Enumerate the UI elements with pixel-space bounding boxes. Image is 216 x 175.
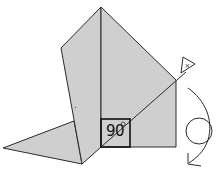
left-triangle <box>3 121 82 164</box>
diagram-svg: × <box>0 0 216 175</box>
flag-x-mark: × <box>185 62 191 70</box>
tick-mark <box>75 107 76 108</box>
geometry-diagram: × 90 <box>0 0 216 175</box>
angle-label: 90 <box>106 122 124 140</box>
clockwise-rotation-arrow-icon <box>186 88 212 166</box>
